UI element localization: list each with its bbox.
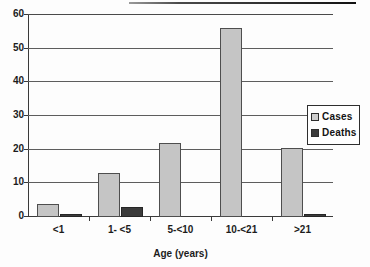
y-axis-tick-label: 50 [2, 43, 24, 53]
page-top-rule [129, 2, 356, 4]
x-axis-label: >21 [272, 224, 333, 236]
y-axis-tick-label: 60 [2, 9, 24, 19]
y-axis-tick-label: 20 [2, 144, 24, 154]
x-axis-tick-mark [150, 217, 151, 221]
y-axis-tick-label: 40 [2, 76, 24, 86]
x-axis-tick-mark [89, 217, 90, 221]
grid-line [28, 115, 333, 116]
x-axis-label: 10-<21 [211, 224, 272, 236]
bar-chart-screenshot: 0102030405060 <11- <55-<1010-<21>21 Age … [0, 0, 370, 267]
grid-line [28, 81, 333, 82]
legend-label-deaths: Deaths [322, 128, 357, 138]
x-axis-label: <1 [28, 224, 89, 236]
bar-deaths-1 [121, 207, 143, 217]
chart-legend: Cases Deaths [307, 105, 360, 145]
legend-item-deaths: Deaths [311, 125, 359, 141]
bar-cases-2 [159, 143, 181, 217]
deaths-swatch-icon [311, 129, 319, 137]
x-axis-title: Age (years) [28, 248, 333, 259]
plot-area [28, 14, 333, 217]
y-axis-tick-label: 0 [2, 211, 24, 221]
y-axis-tick-label: 30 [2, 110, 24, 120]
x-axis-tick-mark [211, 217, 212, 221]
bar-deaths-4 [304, 214, 326, 217]
x-axis-tick-mark [272, 217, 273, 221]
grid-line [28, 48, 333, 49]
bar-deaths-0 [60, 214, 82, 217]
x-axis-label: 5-<10 [150, 224, 211, 236]
legend-item-cases: Cases [311, 109, 359, 125]
legend-label-cases: Cases [322, 112, 352, 122]
y-axis-tick-label: 10 [2, 177, 24, 187]
x-axis-category-labels: <11- <55-<1010-<21>21 [28, 224, 333, 238]
bar-cases-4 [281, 148, 303, 217]
x-axis-label: 1- <5 [89, 224, 150, 236]
cases-swatch-icon [311, 113, 319, 121]
grid-line [28, 14, 333, 15]
y-axis-tick-labels: 0102030405060 [0, 14, 24, 217]
bar-cases-0 [37, 204, 59, 217]
bar-cases-1 [98, 173, 120, 217]
bar-cases-3 [220, 28, 242, 217]
